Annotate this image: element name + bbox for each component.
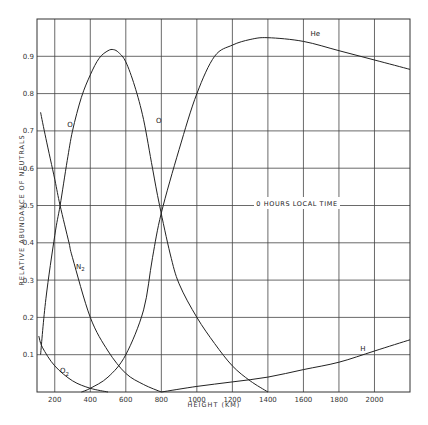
x-tick-label: 1800 bbox=[330, 396, 348, 404]
annotation-text: 0 HOURS LOCAL TIME bbox=[256, 200, 337, 208]
curve-o2 bbox=[39, 336, 108, 392]
abundance-chart: 200400600800100012001400160018002000 0.1… bbox=[0, 0, 428, 425]
curve-h bbox=[161, 340, 410, 392]
y-tick-label: 0.8 bbox=[23, 90, 34, 98]
x-tick-label: 1400 bbox=[259, 396, 277, 404]
grid-lines bbox=[37, 19, 410, 392]
curve-n2 bbox=[41, 112, 162, 392]
y-tick-label: 0.7 bbox=[23, 127, 34, 135]
x-tick-label: 800 bbox=[155, 396, 168, 404]
curve-he bbox=[81, 38, 410, 392]
curve-label-he: He bbox=[311, 30, 321, 38]
curve-o bbox=[41, 49, 268, 392]
y-axis-label: RELATIVE ABUNDANCE OF NEUTRALS bbox=[18, 134, 26, 285]
curve-label-n2: N2 bbox=[76, 263, 85, 273]
y-tick-label: 0.9 bbox=[23, 53, 34, 61]
x-tick-label: 200 bbox=[48, 396, 61, 404]
curves bbox=[39, 38, 410, 392]
curve-label-o: O bbox=[67, 121, 73, 129]
curve-label-o: O bbox=[156, 117, 162, 125]
x-tick-label: 600 bbox=[119, 396, 132, 404]
x-tick-label: 400 bbox=[84, 396, 97, 404]
x-tick-label: 2000 bbox=[366, 396, 384, 404]
x-axis-label: HEIGHT (KM) bbox=[188, 401, 241, 409]
y-tick-label: 0.1 bbox=[23, 351, 34, 359]
curve-label-h: H bbox=[360, 345, 365, 353]
y-tick-label: 0.2 bbox=[23, 314, 34, 322]
x-tick-label: 1600 bbox=[295, 396, 313, 404]
